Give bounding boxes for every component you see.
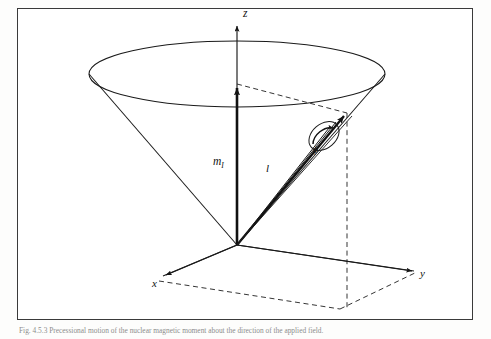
moment-vector-label: mI: [213, 155, 224, 170]
precession-fan-line-2: [237, 122, 336, 245]
moment-vector-label-subscript: I: [220, 161, 224, 170]
z-axis-label: z: [242, 7, 248, 19]
x-axis-label: x: [151, 277, 157, 289]
figure-drawing: z x y mI l ϕ: [0, 0, 491, 339]
x-axis-arrow: [166, 245, 237, 275]
rim-radius-dashed: [237, 84, 347, 113]
figure-caption: Fig. 4.5.3 Precessional motion of the nu…: [19, 326, 479, 335]
precession-fan-line-3: [237, 116, 352, 245]
figure-root: z x y mI l ϕ Fig. 4.5.3 Precessional mot…: [0, 0, 491, 339]
y-axis-label: y: [419, 267, 425, 279]
base-edge-dashed-left: [159, 281, 340, 309]
precession-angle-label: ϕ: [313, 145, 318, 155]
l-vector-label: l: [266, 162, 269, 174]
base-edge-dashed-right: [340, 272, 417, 309]
y-axis-arrow: [237, 245, 412, 271]
moment-vector-label-base: m: [213, 155, 221, 167]
